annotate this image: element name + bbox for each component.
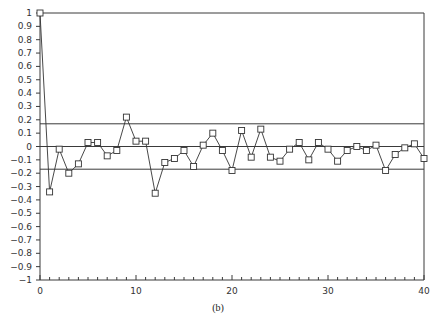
square-marker xyxy=(75,161,81,167)
square-marker xyxy=(171,156,177,162)
y-tick-label: 1 xyxy=(26,8,32,18)
square-marker xyxy=(373,142,379,148)
square-marker xyxy=(85,139,91,145)
y-tick-label: 0.5 xyxy=(18,75,32,85)
square-marker xyxy=(258,126,264,132)
square-marker xyxy=(133,138,139,144)
x-tick-label: 40 xyxy=(418,286,430,296)
square-marker xyxy=(248,154,254,160)
square-marker xyxy=(162,160,168,166)
square-marker xyxy=(239,127,245,133)
square-marker xyxy=(152,190,158,196)
square-marker xyxy=(47,189,53,195)
y-tick-label: −0.2 xyxy=(10,168,32,178)
square-marker xyxy=(325,146,331,152)
square-marker xyxy=(56,146,62,152)
square-marker xyxy=(143,138,149,144)
square-marker xyxy=(277,158,283,164)
x-tick-label: 30 xyxy=(322,286,334,296)
y-tick-label: 0.4 xyxy=(18,88,33,98)
data-series xyxy=(37,10,427,196)
square-marker xyxy=(229,168,235,174)
y-tick-label: −0.6 xyxy=(10,222,32,232)
series-line xyxy=(40,13,424,193)
square-marker xyxy=(392,152,398,158)
y-tick-label: 0.3 xyxy=(18,101,32,111)
square-marker xyxy=(95,139,101,145)
square-marker xyxy=(114,148,120,154)
square-marker xyxy=(66,170,72,176)
square-marker xyxy=(219,148,225,154)
y-tick-label: 0.7 xyxy=(18,48,32,58)
figure-caption: (b) xyxy=(212,302,224,314)
square-marker xyxy=(306,157,312,163)
y-tick-label: −0.7 xyxy=(10,235,32,245)
y-tick-label: 0.9 xyxy=(18,21,33,31)
y-tick-label: −0.9 xyxy=(10,262,32,272)
y-tick-label: 0.8 xyxy=(18,35,33,45)
y-tick-label: −0.1 xyxy=(10,155,32,165)
x-tick-label: 10 xyxy=(130,286,142,296)
square-marker xyxy=(411,141,417,147)
square-marker xyxy=(354,144,360,150)
x-tick-label: 0 xyxy=(37,286,43,296)
square-marker xyxy=(287,146,293,152)
square-marker xyxy=(402,145,408,151)
square-marker xyxy=(315,139,321,145)
y-tick-label: 0.1 xyxy=(18,128,32,138)
square-marker xyxy=(363,148,369,154)
y-tick-label: −0.4 xyxy=(10,195,32,205)
y-tick-label: −0.5 xyxy=(10,208,32,218)
square-marker xyxy=(200,142,206,148)
square-marker xyxy=(210,130,216,136)
square-marker xyxy=(383,168,389,174)
y-tick-label: 0.6 xyxy=(18,61,33,71)
square-marker xyxy=(37,10,43,16)
square-marker xyxy=(267,154,273,160)
y-tick-label: −0.3 xyxy=(10,182,32,192)
square-marker xyxy=(123,114,129,120)
x-tick-label: 20 xyxy=(226,286,238,296)
acf-chart: 10.90.80.70.60.50.40.30.20.10−0.1−0.2−0.… xyxy=(0,0,436,315)
square-marker xyxy=(104,153,110,159)
square-marker xyxy=(181,148,187,154)
y-tick-label: 0.2 xyxy=(18,115,32,125)
square-marker xyxy=(296,139,302,145)
square-marker xyxy=(335,158,341,164)
square-marker xyxy=(191,164,197,170)
square-marker xyxy=(421,156,427,162)
y-tick-label: −1 xyxy=(19,275,32,285)
square-marker xyxy=(344,148,350,154)
y-tick-label: 0 xyxy=(26,142,32,152)
y-tick-label: −0.8 xyxy=(10,248,32,258)
